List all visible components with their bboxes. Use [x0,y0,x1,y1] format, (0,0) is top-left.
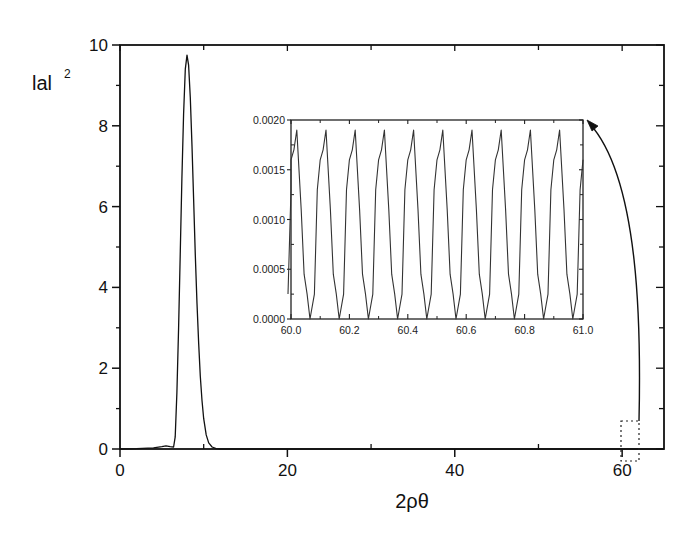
y-tick-label: 10 [89,36,108,55]
inset-x-tick-label: 60.4 [398,324,419,336]
inset-x-tick-label: 60.8 [514,324,535,336]
x-tick-label: 40 [445,461,464,480]
inset-x-tick-label: 61.0 [573,324,594,336]
inset-x-tick-label: 60.0 [281,324,302,336]
x-tick-label: 0 [115,461,124,480]
x-tick-label: 20 [278,461,297,480]
y-axis-label-superscript: 2 [64,67,71,81]
y-axis-label: lal [32,72,52,94]
inset-y-tick-label: 0.0005 [253,263,285,275]
y-tick-label: 8 [99,117,108,136]
inset-x-tick-label: 60.2 [339,324,360,336]
annotations [587,120,640,461]
inset-x-tick-label: 60.6 [456,324,477,336]
inset-y-tick-label: 0.0000 [253,313,285,325]
y-tick-label: 6 [99,198,108,217]
arrowhead-icon [587,120,598,131]
y-tick-label: 2 [99,359,108,378]
inset-y-tick-label: 0.0010 [253,214,285,226]
y-tick-label: 0 [99,440,108,459]
chart-canvas: 020406002468102ρθlal2 60.060.260.460.660… [0,0,700,551]
inset-frame [291,120,583,319]
inset-y-tick-label: 0.0015 [253,164,285,176]
x-axis-label: 2ρθ [395,490,429,512]
inset-plot: 60.060.260.460.660.861.00.00000.00050.00… [253,114,594,336]
y-tick-label: 4 [99,278,108,297]
zoom-arrow-line [590,124,640,421]
inset-y-tick-label: 0.0020 [253,114,285,126]
x-tick-label: 60 [613,461,632,480]
zoom-region-dashed-box [621,421,639,461]
